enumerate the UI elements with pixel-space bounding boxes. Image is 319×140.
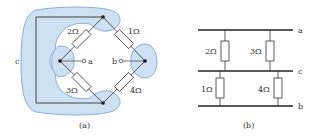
label-2ohm: 2Ω [67,27,79,36]
diagram-canvas: 2Ω 1Ω 3Ω 4Ω a b c (a) 2Ω 3Ω 1Ω 4Ω a c b … [0,0,319,140]
label-bus-b: b [298,102,303,111]
label-1ohm-b: 1Ω [201,85,213,94]
label-bus-c: c [298,67,303,76]
junction-bottom-icon [101,101,105,105]
resistor-4ohm-b [274,78,282,98]
resistor-2ohm-b [221,41,229,61]
label-terminal-b: b [112,57,117,66]
label-4ohm: 4Ω [130,86,142,95]
label-terminal-a: a [88,57,93,66]
caption-b: (b) [243,121,254,130]
label-2ohm-b: 2Ω [205,47,217,56]
label-node-c: c [15,57,20,66]
panel-a: 2Ω 1Ω 3Ω 4Ω a b c (a) [15,7,157,130]
terminal-a-icon [82,59,86,63]
terminal-b-icon [119,59,123,63]
label-3ohm: 3Ω [66,86,78,95]
label-3ohm-b: 3Ω [250,47,262,56]
junction-right-icon [143,59,147,63]
resistor-3ohm-b [266,41,274,61]
junction-left-icon [58,59,62,63]
junction-top-icon [101,15,105,19]
label-4ohm-b: 4Ω [258,85,270,94]
label-bus-a: a [298,26,303,35]
panel-b: 2Ω 3Ω 1Ω 4Ω a c b (b) [198,26,303,130]
caption-a: (a) [79,121,90,130]
resistor-1ohm-b [216,78,224,98]
label-1ohm: 1Ω [128,27,140,36]
